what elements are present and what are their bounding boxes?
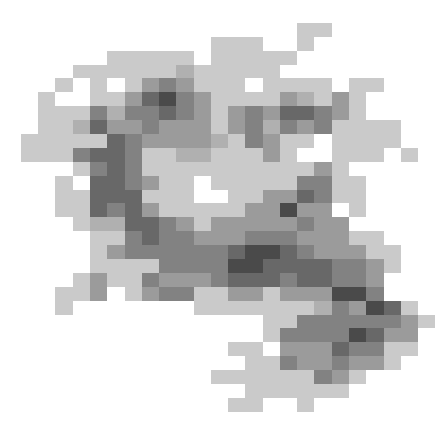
- pixel-cell: [245, 51, 262, 65]
- pixel-cell: [125, 328, 142, 342]
- pixel-cell: [21, 203, 38, 217]
- pixel-cell: [38, 398, 55, 412]
- pixel-cell: [38, 245, 55, 259]
- pixel-cell: [38, 162, 55, 176]
- pixel-cell: [211, 78, 228, 92]
- pixel-cell: [384, 134, 401, 148]
- pixel-cell: [142, 9, 159, 23]
- pixel-cell: [176, 342, 193, 356]
- pixel-cell: [245, 162, 262, 176]
- pixel-cell: [349, 65, 366, 79]
- pixel-cell: [332, 370, 349, 384]
- pixel-cell: [4, 106, 21, 120]
- pixel-cell: [125, 287, 142, 301]
- pixel-cell: [211, 9, 228, 23]
- pixel-cell: [263, 176, 280, 190]
- pixel-cell: [211, 51, 228, 65]
- pixel-cell: [245, 106, 262, 120]
- pixel-cell: [176, 78, 193, 92]
- pixel-cell: [418, 287, 435, 301]
- pixel-cell: [194, 190, 211, 204]
- pixel-cell: [401, 78, 418, 92]
- pixel-cell: [125, 134, 142, 148]
- pixel-cell: [21, 398, 38, 412]
- pixel-cell: [73, 370, 90, 384]
- pixel-cell: [142, 176, 159, 190]
- pixel-cell: [4, 301, 21, 315]
- pixel-cell: [314, 134, 331, 148]
- pixel-cell: [211, 106, 228, 120]
- pixel-cell: [21, 315, 38, 329]
- pixel-cell: [38, 65, 55, 79]
- pixel-cell: [107, 315, 124, 329]
- pixel-cell: [297, 328, 314, 342]
- pixel-cell: [297, 37, 314, 51]
- pixel-cell: [21, 51, 38, 65]
- pixel-cell: [73, 245, 90, 259]
- pixel-cell: [418, 92, 435, 106]
- pixel-cell: [90, 328, 107, 342]
- pixel-cell: [4, 190, 21, 204]
- pixel-cell: [4, 412, 21, 426]
- pixel-cell: [332, 134, 349, 148]
- pixel-cell: [384, 120, 401, 134]
- pixel-cell: [245, 37, 262, 51]
- pixel-cell: [314, 51, 331, 65]
- pixel-cell: [349, 162, 366, 176]
- pixel-cell: [280, 342, 297, 356]
- pixel-cell: [349, 23, 366, 37]
- pixel-cell: [176, 384, 193, 398]
- pixel-cell: [55, 231, 72, 245]
- pixel-cell: [332, 148, 349, 162]
- pixel-cell: [107, 148, 124, 162]
- pixel-cell: [297, 287, 314, 301]
- pixel-cell: [194, 315, 211, 329]
- pixel-cell: [107, 217, 124, 231]
- pixel-cell: [38, 384, 55, 398]
- pixel-cell: [280, 301, 297, 315]
- pixel-cell: [159, 384, 176, 398]
- pixel-cell: [332, 398, 349, 412]
- pixel-cell: [125, 217, 142, 231]
- pixel-cell: [73, 384, 90, 398]
- pixel-cell: [245, 176, 262, 190]
- pixel-cell: [142, 287, 159, 301]
- pixel-cell: [21, 23, 38, 37]
- pixel-cell: [263, 342, 280, 356]
- pixel-cell: [55, 370, 72, 384]
- pixel-cell: [73, 92, 90, 106]
- pixel-cell: [314, 9, 331, 23]
- pixel-cell: [349, 245, 366, 259]
- pixel-cell: [228, 328, 245, 342]
- pixel-cell: [228, 148, 245, 162]
- pixel-cell: [90, 301, 107, 315]
- pixel-cell: [245, 259, 262, 273]
- pixel-cell: [142, 356, 159, 370]
- pixel-cell: [211, 301, 228, 315]
- pixel-cell: [21, 148, 38, 162]
- pixel-cell: [297, 245, 314, 259]
- pixel-cell: [107, 92, 124, 106]
- pixel-cell: [125, 120, 142, 134]
- pixel-cell: [55, 148, 72, 162]
- pixel-cell: [176, 176, 193, 190]
- pixel-cell: [38, 78, 55, 92]
- pixel-cell: [211, 273, 228, 287]
- pixel-cell: [159, 9, 176, 23]
- pixel-cell: [176, 287, 193, 301]
- pixel-cell: [384, 384, 401, 398]
- pixel-cell: [418, 245, 435, 259]
- pixel-cell: [107, 245, 124, 259]
- pixel-cell: [263, 245, 280, 259]
- pixel-cell: [418, 315, 435, 329]
- pixel-cell: [280, 92, 297, 106]
- pixel-cell: [228, 23, 245, 37]
- pixel-cell: [55, 37, 72, 51]
- pixel-cell: [332, 37, 349, 51]
- pixel-cell: [159, 217, 176, 231]
- pixel-cell: [245, 148, 262, 162]
- pixel-cell: [107, 106, 124, 120]
- pixel-cell: [38, 315, 55, 329]
- pixel-cell: [90, 162, 107, 176]
- pixel-cell: [211, 259, 228, 273]
